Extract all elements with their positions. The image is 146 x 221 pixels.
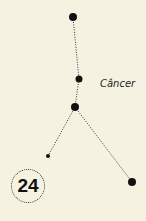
constellation-label: Câncer <box>100 78 135 89</box>
star <box>128 178 136 186</box>
star <box>76 76 83 83</box>
constellation-line <box>75 79 79 107</box>
constellation-line <box>75 107 132 182</box>
constellation-line <box>48 107 75 156</box>
constellation-line <box>73 17 79 79</box>
page-number-badge: 24 <box>11 169 45 203</box>
star <box>71 103 79 111</box>
star <box>46 154 50 158</box>
star <box>69 13 77 21</box>
